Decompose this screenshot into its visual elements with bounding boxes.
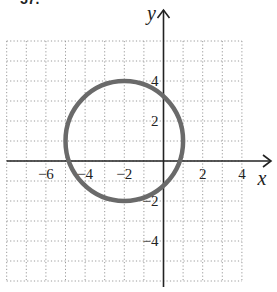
- coordinate-plane: −6−4−22442−2−4xy: [0, 0, 277, 292]
- tick-labels: −6−4−22442−2−4xy: [38, 2, 267, 249]
- x-tick-label: −2: [116, 166, 132, 182]
- y-tick-label: 2: [151, 113, 159, 129]
- x-tick-label: −4: [77, 166, 93, 182]
- y-tick-label: 4: [151, 73, 159, 89]
- y-tick-label: −4: [143, 233, 159, 249]
- x-axis-label: x: [257, 167, 267, 189]
- x-tick-label: 4: [238, 166, 246, 182]
- x-tick-label: 2: [199, 166, 207, 182]
- y-axis-label: y: [145, 2, 156, 25]
- x-tick-label: −6: [38, 166, 54, 182]
- y-tick-label: −2: [143, 193, 159, 209]
